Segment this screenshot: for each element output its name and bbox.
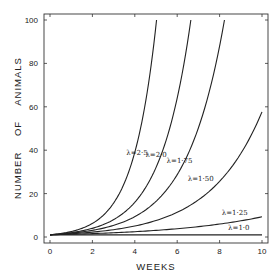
- x-tick-label: 10: [258, 247, 267, 256]
- population-growth-chart: 0246810020406080100 λ=2·5λ=2·0λ=1·75λ=1·…: [0, 0, 280, 276]
- x-axis-title: WEEKS: [136, 261, 175, 272]
- curve-label: λ=2·0: [145, 151, 166, 159]
- y-axis-title: NUMBER OF ANIMALS: [12, 57, 23, 199]
- curve-label: λ=1·25: [222, 209, 248, 217]
- y-tick-label: 60: [29, 103, 38, 112]
- y-tick-label: 100: [25, 16, 39, 25]
- curve-label: λ=1·0: [228, 224, 249, 232]
- x-tick-label: 6: [175, 247, 180, 256]
- y-tick-label: 20: [29, 190, 38, 199]
- x-tick-label: 4: [133, 247, 138, 256]
- x-tick-label: 8: [217, 247, 222, 256]
- x-tick-label: 0: [48, 247, 53, 256]
- axis-ticks: 0246810020406080100: [25, 14, 268, 256]
- curve-2-5: [50, 20, 157, 235]
- curve-1-75: [50, 20, 224, 235]
- curve-label: λ=1·50: [188, 175, 214, 183]
- curve-label: λ=1·75: [167, 157, 193, 165]
- curve-2: [50, 20, 191, 235]
- x-tick-label: 2: [90, 247, 95, 256]
- y-tick-label: 0: [34, 233, 39, 242]
- curve-labels: λ=2·5λ=2·0λ=1·75λ=1·50λ=1·25λ=1·0: [126, 149, 249, 233]
- growth-curves: [50, 20, 262, 235]
- y-tick-label: 80: [29, 59, 38, 68]
- y-tick-label: 40: [29, 146, 38, 155]
